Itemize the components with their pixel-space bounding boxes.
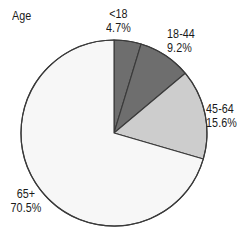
slice-label-18-44-name: 18-44 — [167, 28, 195, 42]
slice-label-65plus-name: 65+ — [11, 188, 42, 202]
slice-label-45-64-pct: 15.6% — [206, 117, 237, 131]
pie-slices — [21, 40, 207, 226]
slice-label-lt18-name: <18 — [106, 8, 131, 22]
slice-label-45-64-name: 45-64 — [206, 103, 237, 117]
slice-label-18-44-pct: 9.2% — [167, 42, 195, 56]
slice-label-lt18: <18 4.7% — [106, 8, 131, 35]
slice-label-65plus: 65+ 70.5% — [11, 188, 42, 215]
slice-label-lt18-pct: 4.7% — [106, 22, 131, 36]
slice-label-45-64: 45-64 15.6% — [206, 103, 237, 130]
slice-label-18-44: 18-44 9.2% — [167, 28, 195, 55]
chart-title-text: Age — [12, 10, 31, 24]
chart-title: Age — [12, 10, 31, 24]
slice-label-65plus-pct: 70.5% — [11, 202, 42, 216]
pie-chart-figure: Age <18 4.7% 18-44 9.2% 45-64 15.6% 65+ … — [0, 0, 251, 244]
